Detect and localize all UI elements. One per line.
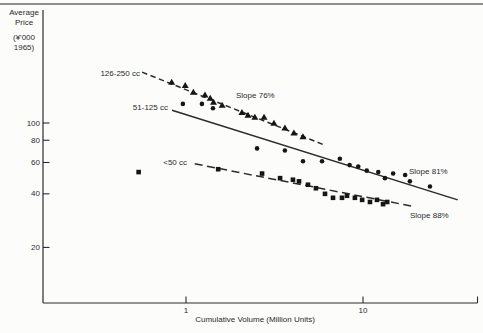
data-point-triangle bbox=[168, 79, 175, 85]
data-point-triangle bbox=[270, 120, 277, 126]
x-axis-title: Cumulative Volume (Million Units) bbox=[145, 315, 365, 324]
trend-line-square bbox=[195, 164, 413, 207]
y-tick-label-100: 100 bbox=[14, 119, 40, 128]
slope-label-76: Slope 76% bbox=[236, 91, 275, 100]
data-point-square bbox=[340, 195, 345, 200]
data-point-triangle bbox=[290, 130, 297, 136]
data-point-circle bbox=[376, 170, 381, 175]
data-point-circle bbox=[403, 173, 408, 178]
data-point-circle bbox=[364, 168, 369, 173]
data-point-square bbox=[216, 167, 221, 172]
data-point-square bbox=[331, 195, 336, 200]
data-point-circle bbox=[320, 159, 325, 164]
series-label-126-250cc: 126-250 cc bbox=[100, 69, 140, 78]
data-point-circle bbox=[391, 171, 396, 176]
data-point-square bbox=[381, 202, 386, 207]
data-point-triangle bbox=[182, 82, 189, 88]
data-point-square bbox=[136, 170, 141, 175]
y-tick-label-20: 20 bbox=[14, 243, 40, 252]
data-point-triangle bbox=[281, 124, 288, 130]
slope-label-81: Slope 81% bbox=[409, 167, 448, 176]
y-axis-title-line: Average bbox=[4, 8, 44, 18]
data-point-triangle bbox=[207, 95, 214, 101]
data-point-circle bbox=[347, 163, 352, 168]
data-point-circle bbox=[356, 164, 361, 169]
y-axis-title: Average Price (¥'000 1965) bbox=[4, 8, 44, 52]
data-point-circle bbox=[408, 179, 413, 184]
data-point-square bbox=[314, 186, 319, 191]
y-axis-unit-line: (¥'000 bbox=[4, 33, 44, 43]
data-point-square bbox=[291, 177, 296, 182]
data-point-triangle bbox=[190, 89, 197, 95]
y-axis-title-line: Price bbox=[4, 18, 44, 28]
data-point-circle bbox=[301, 159, 306, 164]
data-point-circle bbox=[428, 184, 433, 189]
x-tick-label-1: 1 bbox=[176, 306, 196, 315]
data-point-square bbox=[368, 200, 373, 205]
series-label-under-50cc: <50 cc bbox=[163, 158, 187, 167]
data-point-square bbox=[353, 195, 358, 200]
data-point-triangle bbox=[299, 133, 306, 139]
chart-page: Average Price (¥'000 1965) 126-250 cc 51… bbox=[0, 0, 483, 333]
data-point-circle bbox=[181, 102, 186, 107]
series-label-51-125cc: 51-125 cc bbox=[133, 103, 168, 112]
data-point-square bbox=[345, 193, 350, 198]
data-point-triangle bbox=[244, 112, 251, 118]
y-tick-label-40: 40 bbox=[14, 189, 40, 198]
data-point-square bbox=[306, 182, 311, 187]
data-point-circle bbox=[200, 102, 205, 107]
data-point-triangle bbox=[201, 92, 208, 98]
data-point-circle bbox=[255, 146, 260, 151]
data-point-square bbox=[260, 171, 265, 176]
data-point-triangle bbox=[238, 109, 245, 115]
y-tick-label-60: 60 bbox=[14, 158, 40, 167]
y-axis-unit-line: 1965) bbox=[4, 43, 44, 53]
data-point-square bbox=[375, 198, 380, 203]
x-tick-label-10: 10 bbox=[353, 306, 373, 315]
data-point-circle bbox=[283, 148, 288, 153]
data-point-square bbox=[360, 198, 365, 203]
data-point-circle bbox=[338, 156, 343, 161]
data-point-circle bbox=[211, 106, 216, 111]
data-point-square bbox=[323, 192, 328, 197]
data-point-square bbox=[278, 176, 283, 181]
data-point-square bbox=[385, 200, 390, 205]
data-point-circle bbox=[383, 176, 388, 181]
data-point-square bbox=[297, 179, 302, 184]
y-tick-label-80: 80 bbox=[14, 136, 40, 145]
data-point-triangle bbox=[261, 114, 268, 120]
slope-label-88: Slope 88% bbox=[410, 211, 449, 220]
